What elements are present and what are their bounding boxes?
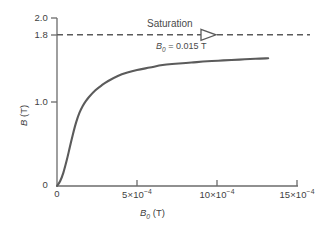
x-tick-exponent: −4 xyxy=(144,188,152,195)
applied-field-value: 0.015 xyxy=(176,41,199,51)
chart-figure: 2.0 1.8 1.0 0 0 5×10−4 10×10−4 15×10−4 B… xyxy=(0,0,331,230)
x-tick-base: 10 xyxy=(216,189,227,200)
y-tick-label-1.0: 1.0 xyxy=(26,96,48,107)
x-tick-label-10e-4: 10×10−4 xyxy=(187,188,247,200)
x-axis-unit-text: (T) xyxy=(153,207,165,218)
y-axis-symbol: B xyxy=(18,120,29,126)
x-tick-exponent: −4 xyxy=(227,188,235,195)
x-tick-mantissa: 15 xyxy=(279,189,290,200)
x-axis-title: B0 (T) xyxy=(140,207,165,220)
x-tick-base: 10 xyxy=(133,189,144,200)
x-tick-label-0: 0 xyxy=(48,188,66,199)
saturation-arrow-icon xyxy=(201,29,216,40)
magnetization-curve xyxy=(57,58,268,186)
x-tick-label-5e-4: 5×10−4 xyxy=(107,188,167,200)
applied-field-annotation: B0 = 0.015 T xyxy=(156,41,206,53)
y-axis-title: B (T) xyxy=(18,105,29,126)
applied-field-equals: = xyxy=(166,41,176,51)
saturation-label: Saturation xyxy=(147,18,193,29)
x-tick-base: 10 xyxy=(296,189,307,200)
x-tick-label-15e-4: 15×10−4 xyxy=(267,188,327,200)
x-tick-exponent: −4 xyxy=(307,188,315,195)
x-tick-mantissa: 10 xyxy=(199,189,210,200)
y-axis-unit-text: (T) xyxy=(18,105,29,117)
y-tick-label-2.0: 2.0 xyxy=(26,12,48,23)
y-tick-label-0: 0 xyxy=(26,179,48,190)
applied-field-unit: T xyxy=(201,41,207,51)
y-tick-label-1.8: 1.8 xyxy=(26,29,48,40)
